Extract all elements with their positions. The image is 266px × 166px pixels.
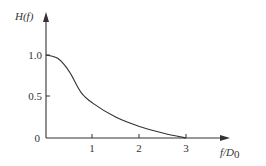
y-axis-title: H(f): [14, 10, 34, 23]
x-axis-arrow-icon: [220, 135, 230, 141]
h-f-curve: [46, 55, 186, 138]
y-tick-label-1: 1.0: [28, 49, 42, 61]
x-tick-label-3: 3: [183, 142, 189, 154]
x-tick-label-1: 1: [89, 142, 95, 154]
chart: 1 2 3 0 0.5 1.0 H(f) f/D0: [0, 0, 266, 166]
x-axis-title: f/D0: [220, 146, 240, 160]
y-axis-arrow-icon: [43, 12, 49, 22]
x-tick-label-2: 2: [136, 142, 142, 154]
y-tick-label-0: 0: [35, 132, 41, 144]
y-tick-label-05: 0.5: [28, 90, 42, 102]
